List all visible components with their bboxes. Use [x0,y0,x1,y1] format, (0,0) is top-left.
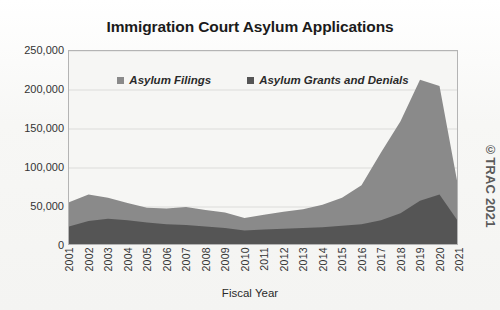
legend-swatch-icon [117,77,124,84]
x-axis-tick-label: 2006 [161,247,173,272]
y-axis-tick-label: 150,000 [2,122,64,134]
x-axis-tick-label: 2004 [122,247,134,272]
y-axis-tick-label: 0 [2,239,64,251]
x-axis-tick-label: 2013 [297,247,309,272]
y-axis-tick-label: 100,000 [2,161,64,173]
y-axis: 050,000100,000150,000200,000250,000 [0,50,64,245]
y-axis-tick-label: 50,000 [2,200,64,212]
x-axis-tick-label: 2009 [219,247,231,272]
chart-screenshot: Immigration Court Asylum Applications 05… [0,0,500,310]
x-axis-tick-label: 2015 [336,247,348,272]
x-axis-tick-label: 2011 [258,247,270,271]
legend-label: Asylum Grants and Denials [259,74,409,86]
x-axis-tick-label: 2007 [180,247,192,272]
page-title: Immigration Court Asylum Applications [0,18,500,36]
x-axis-tick-label: 2014 [317,247,329,272]
x-axis-tick-label: 2020 [434,247,446,272]
y-axis-tick-label: 200,000 [2,83,64,95]
x-axis-tick-label: 2003 [102,247,114,272]
x-axis: 2001200220032004200520062007200820092010… [68,247,458,283]
x-axis-tick-label: 2017 [375,247,387,272]
legend-label: Asylum Filings [129,74,211,86]
x-axis-tick-label: 2008 [200,247,212,272]
legend-item: Asylum Grants and Denials [247,74,409,86]
x-axis-tick-label: 2010 [239,247,251,272]
x-axis-tick-label: 2002 [83,247,95,272]
legend-swatch-icon [247,77,254,84]
x-axis-tick-label: 2001 [63,247,75,272]
legend-item: Asylum Filings [117,74,211,86]
x-axis-tick-label: 2005 [141,247,153,272]
y-axis-tick-label: 250,000 [2,44,64,56]
x-axis-title: Fiscal Year [0,287,500,299]
x-axis-tick-label: 2018 [395,247,407,272]
chart-legend: Asylum FilingsAsylum Grants and Denials [68,74,458,86]
copyright-watermark: ©TRAC 2021 [483,142,498,228]
x-axis-tick-label: 2019 [414,247,426,272]
x-axis-tick-label: 2012 [278,247,290,272]
x-axis-tick-label: 2016 [356,247,368,272]
x-axis-tick-label: 2021 [453,247,465,272]
